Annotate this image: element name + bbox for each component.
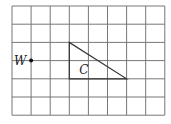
grid-diagram: C W	[0, 0, 171, 124]
point-w-label: W	[14, 54, 28, 68]
grid-lines	[12, 6, 165, 115]
triangle-label: C	[79, 63, 88, 77]
point-w-marker	[29, 59, 33, 63]
